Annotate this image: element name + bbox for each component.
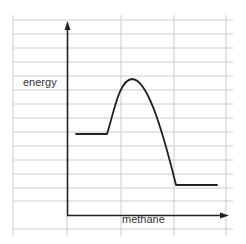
- axes: [65, 21, 230, 219]
- energy-profile-diagram: [0, 0, 246, 244]
- x-axis-arrow-icon: [220, 213, 229, 219]
- grid: [13, 15, 233, 236]
- x-axis-label: methane: [122, 213, 165, 225]
- y-axis-arrow-icon: [65, 21, 71, 30]
- y-axis-label: energy: [23, 76, 57, 88]
